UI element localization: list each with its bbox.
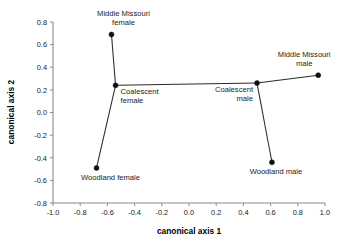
- x-tick-label: 0.2: [211, 208, 221, 217]
- y-tick-label: 0.8: [37, 18, 47, 27]
- point-label-middle-missouri-female: Middle Missouri: [97, 9, 150, 18]
- x-tick-label: -0.8: [74, 208, 87, 217]
- point-label-middle-missouri-male: Middle Missouri: [278, 50, 331, 59]
- x-tick-label: -1.0: [47, 208, 60, 217]
- x-tick-label: -0.4: [128, 208, 141, 217]
- x-tick-label: 0.6: [265, 208, 275, 217]
- data-point-woodland-male: [269, 160, 274, 165]
- y-tick-label: 0.0: [37, 108, 47, 117]
- point-label-middle-missouri-male-line2: male: [296, 59, 312, 68]
- x-tick-label: 0.4: [238, 208, 248, 217]
- x-axis-title: canonical axis 1: [157, 226, 222, 236]
- connector-line: [111, 34, 115, 85]
- data-point-middle-missouri-male: [316, 73, 321, 78]
- point-labels: Middle MissourifemaleCoalescentfemaleWoo…: [81, 9, 331, 181]
- x-tick-label: 0.0: [184, 208, 194, 217]
- x-axis-ticks: -1.0-0.8-0.6-0.4-0.20.00.20.40.60.81.0: [47, 203, 331, 217]
- y-tick-label: -0.4: [34, 154, 47, 163]
- plot-canvas: -1.0-0.8-0.6-0.4-0.20.00.20.40.60.81.0 0…: [0, 0, 343, 241]
- connector-line: [257, 83, 272, 162]
- point-label-coalescent-female: Coalescent: [121, 87, 160, 96]
- point-label-woodland-male: Woodland male: [250, 167, 303, 176]
- y-tick-label: -0.2: [34, 131, 47, 140]
- x-tick-label: 1.0: [320, 208, 330, 217]
- point-label-coalescent-female-line2: female: [121, 96, 144, 105]
- y-tick-label: 0.4: [37, 63, 47, 72]
- point-label-coalescent-male: Coalescent: [215, 85, 254, 94]
- y-axis-ticks: 0.80.60.40.20.0-0.2-0.4-0.6-0.8: [34, 18, 53, 208]
- x-tick-label: 0.8: [293, 208, 303, 217]
- connector-line: [97, 85, 116, 168]
- data-point-coalescent-male: [255, 81, 260, 86]
- y-tick-label: -0.6: [34, 176, 47, 185]
- point-label-middle-missouri-female-line2: female: [112, 18, 135, 27]
- x-tick-label: -0.6: [101, 208, 114, 217]
- y-axis-title: canonical axis 2: [6, 80, 16, 145]
- connector-line: [257, 75, 318, 83]
- canonical-variates-scatter-figure: -1.0-0.8-0.6-0.4-0.20.00.20.40.60.81.0 0…: [0, 0, 343, 241]
- point-label-coalescent-male-line2: male: [237, 94, 253, 103]
- x-tick-label: -0.2: [155, 208, 168, 217]
- y-tick-label: 0.6: [37, 40, 47, 49]
- point-label-woodland-female: Woodland female: [81, 173, 140, 182]
- y-tick-label: -0.8: [34, 199, 47, 208]
- data-point-coalescent-female: [113, 83, 118, 88]
- data-point-middle-missouri-female: [109, 32, 114, 37]
- data-point-woodland-female: [94, 165, 99, 170]
- y-tick-label: 0.2: [37, 86, 47, 95]
